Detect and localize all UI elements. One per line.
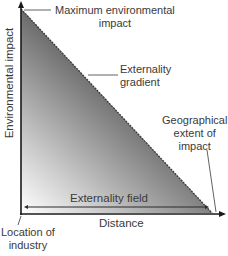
geographical-extent-label: Geographical extent of impact <box>162 114 227 153</box>
max-impact-line2: impact <box>55 17 175 30</box>
y-axis-arrow-icon <box>18 1 24 8</box>
origin-line2: industry <box>1 239 55 252</box>
x-axis-label: Distance <box>99 217 144 230</box>
y-axis-label: Environmental impact <box>3 25 15 141</box>
max-impact-label: Maximum environmental impact <box>55 4 175 30</box>
max-impact-line1: Maximum environmental <box>55 4 175 17</box>
extent-line1: Geographical <box>162 114 227 127</box>
gradient-line1: Externality <box>120 63 171 76</box>
origin-label: Location of industry <box>1 226 55 252</box>
origin-line1: Location of <box>1 226 55 239</box>
extent-line2: extent of <box>162 127 227 140</box>
gradient-line2: gradient <box>120 76 171 89</box>
x-axis-arrow-icon <box>219 211 226 217</box>
extent-leader <box>207 150 216 212</box>
origin-leader <box>18 216 21 225</box>
extent-line3: impact <box>162 140 227 153</box>
externality-field-label: Externality field <box>70 192 148 205</box>
externality-gradient-label: Externality gradient <box>120 63 171 89</box>
